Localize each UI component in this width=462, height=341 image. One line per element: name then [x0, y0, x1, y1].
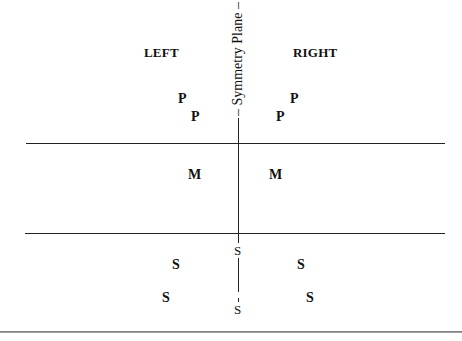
symmetry-plane-label: – Symmetry Plane –	[231, 2, 245, 116]
marker-p-right-1: P	[290, 92, 299, 106]
marker-s-right-2: S	[306, 291, 314, 305]
diagram-canvas: LEFT RIGHT – Symmetry Plane – P P P P M …	[0, 0, 462, 341]
symmetry-axis-upper	[238, 118, 239, 243]
axis-marker-s-lower: S	[234, 303, 241, 316]
bottom-divider	[0, 331, 462, 333]
marker-m-right: M	[269, 168, 282, 182]
marker-s-left-1: S	[172, 258, 180, 272]
marker-s-right-1: S	[297, 258, 305, 272]
left-side-label: LEFT	[144, 46, 179, 59]
axis-label-suffix-dash: –	[230, 2, 245, 9]
lower-boundary-line	[25, 233, 445, 234]
right-side-label: RIGHT	[293, 46, 337, 59]
axis-label-prefix-dash: –	[230, 109, 245, 116]
marker-s-left-2: S	[162, 291, 170, 305]
axis-marker-s-upper: S	[234, 244, 241, 257]
marker-m-left: M	[188, 168, 201, 182]
axis-label-text: Symmetry Plane	[230, 13, 245, 106]
marker-p-right-2: P	[276, 110, 285, 124]
upper-boundary-line	[26, 143, 445, 144]
marker-p-left-1: P	[178, 92, 187, 106]
symmetry-axis-middle	[238, 258, 239, 292]
marker-p-left-2: P	[191, 110, 200, 124]
